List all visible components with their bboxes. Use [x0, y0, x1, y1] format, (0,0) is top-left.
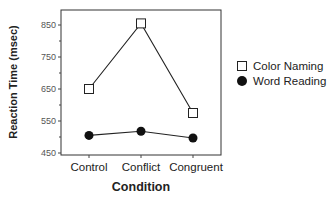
y-axis: 450550650750850: [41, 20, 61, 158]
x-axis-title: Condition: [112, 180, 170, 194]
filled-circle-marker: [189, 133, 198, 142]
legend-label: Word Reading: [253, 75, 326, 87]
y-axis-title: Reaction Time (msec): [7, 25, 19, 139]
y-tick-label: 550: [41, 116, 56, 126]
series-color-naming: [85, 19, 198, 118]
x-tick-label: Congruent: [169, 161, 224, 173]
x-axis: ControlConflictCongruent: [70, 155, 223, 173]
filled-circle-icon: [237, 76, 247, 86]
chart: 450550650750850 ControlConflictCongruent…: [0, 0, 331, 200]
legend-item-color-naming: Color Naming: [238, 60, 324, 72]
filled-circle-marker: [85, 131, 94, 140]
series-word-reading: [85, 127, 198, 143]
x-tick-label: Conflict: [122, 161, 161, 173]
legend-item-word-reading: Word Reading: [237, 75, 326, 87]
x-tick-label: Control: [70, 161, 107, 173]
y-tick-label: 450: [41, 148, 56, 158]
open-square-marker: [189, 109, 198, 118]
y-tick-label: 650: [41, 84, 56, 94]
legend-label: Color Naming: [253, 60, 323, 72]
filled-circle-marker: [137, 127, 146, 136]
open-square-icon: [238, 62, 247, 71]
legend: Color Naming Word Reading: [237, 60, 326, 87]
series-layer: [85, 19, 198, 143]
series-line: [89, 23, 193, 113]
open-square-marker: [85, 85, 94, 94]
y-tick-label: 750: [41, 52, 56, 62]
open-square-marker: [137, 19, 146, 28]
y-tick-label: 850: [41, 20, 56, 30]
